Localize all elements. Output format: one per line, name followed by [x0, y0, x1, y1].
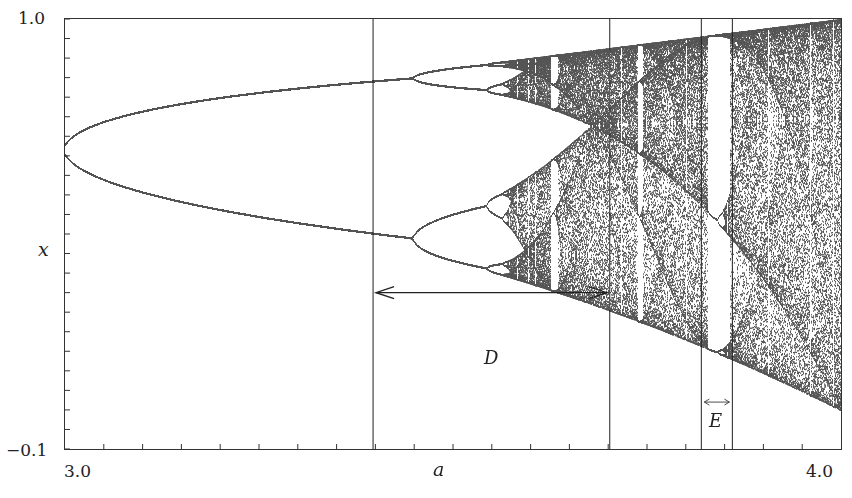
region-e-label: E — [709, 410, 722, 431]
x-tick-label-right: 4.0 — [806, 461, 833, 481]
region-d-label: D — [484, 347, 498, 368]
y-axis-label: x — [38, 238, 49, 260]
annotation-overlay — [65, 19, 841, 449]
region-e-arrow — [704, 399, 729, 405]
y-tick-label-bottom: −0.1 — [6, 440, 47, 460]
region-d-arrow — [376, 287, 607, 299]
bifurcation-plot-area — [64, 18, 842, 450]
x-tick-label-left: 3.0 — [64, 461, 91, 481]
x-axis-label: a — [433, 458, 444, 480]
y-tick-label-top: 1.0 — [18, 8, 45, 28]
